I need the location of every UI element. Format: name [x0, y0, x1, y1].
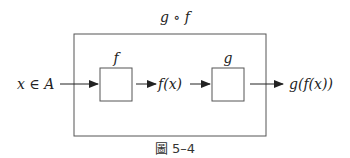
intermediate-label: f(x): [157, 76, 182, 92]
figure-caption: 圖 5–4: [155, 141, 195, 156]
f-function-box: [100, 68, 132, 101]
composition-title: g ∘ f: [160, 9, 193, 25]
composition-diagram: g ∘ f x ∈ A f f(x) g g(f(x)) 圖 5–4: [0, 0, 350, 158]
g-function-box: [212, 68, 244, 101]
f-box-label: f: [112, 50, 121, 66]
output-label: g(f(x)): [289, 76, 333, 92]
g-box-label: g: [224, 50, 233, 66]
input-label: x ∈ A: [17, 76, 54, 92]
